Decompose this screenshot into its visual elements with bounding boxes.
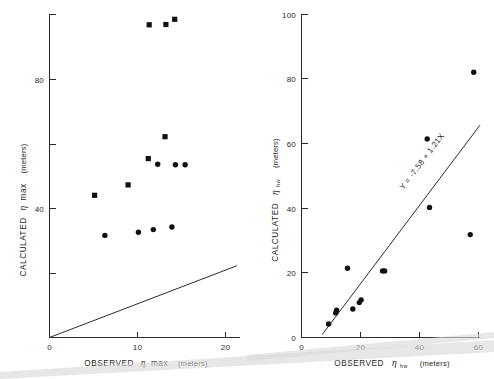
data-point-square: [163, 22, 168, 27]
left-ylabel-eta-symbol: η: [18, 205, 28, 210]
data-point-circle: [182, 162, 187, 167]
data-point-circle: [345, 266, 350, 271]
left-ylabel-prefix: CALCULATED: [19, 217, 28, 276]
data-point-circle: [173, 162, 178, 167]
left-ylabel-suffix: max: [19, 183, 28, 200]
data-point-circle: [425, 136, 430, 141]
data-point-circle: [358, 297, 363, 302]
right-ylabel-eta-symbol: η: [270, 190, 280, 195]
right-ylabel-subscript: hw: [275, 179, 281, 187]
left-y-axis-title: CALCULATED η max (meters): [18, 143, 28, 276]
data-point-circle: [468, 232, 473, 237]
left-ytick-label-80: 80: [35, 76, 45, 85]
data-point-circle: [155, 162, 160, 167]
data-point-square: [162, 134, 167, 139]
figure-container: 40 80 0 10 20 CALCULATED η max (meters) …: [0, 0, 494, 379]
right-ytick-label-60: 60: [287, 140, 297, 149]
data-point-circle: [102, 233, 107, 238]
left-xtick-label-20: 20: [221, 343, 231, 352]
data-point-square: [126, 182, 131, 187]
data-point-circle: [350, 306, 355, 311]
data-point-circle: [136, 230, 141, 235]
left-xtick-label-10: 10: [133, 343, 143, 352]
data-point-circle: [427, 205, 432, 210]
data-point-square: [147, 22, 152, 27]
data-point-circle: [382, 268, 387, 273]
left-ylabel-units: (meters): [19, 143, 28, 173]
data-point-circle: [169, 224, 174, 229]
data-point-circle: [471, 70, 476, 75]
right-ytick-label-80: 80: [287, 75, 297, 84]
left-xtick-label-0: 0: [47, 343, 52, 352]
data-point-circle: [334, 308, 339, 313]
right-xlabel-units: (meters): [420, 359, 450, 368]
data-point-circle: [151, 227, 156, 232]
right-ytick-label-100: 100: [282, 11, 296, 20]
right-ytick-label-20: 20: [287, 269, 297, 278]
right-ytick-label-0: 0: [291, 334, 296, 343]
data-point-square: [92, 193, 97, 198]
figure-background: [0, 0, 494, 379]
right-ylabel-units: (meters): [271, 138, 280, 168]
right-xlabel-eta-symbol: η: [392, 358, 397, 368]
two-panel-scatter-figure: 40 80 0 10 20 CALCULATED η max (meters) …: [0, 0, 494, 379]
right-ylabel-prefix: CALCULATED: [271, 203, 280, 262]
data-point-square: [172, 17, 177, 22]
right-xlabel-prefix: OBSERVED: [334, 359, 384, 368]
data-point-square: [146, 156, 151, 161]
right-ytick-label-40: 40: [287, 205, 297, 214]
left-ytick-label-40: 40: [35, 205, 45, 214]
svg-text:CALCULATED η: CALCULATED η max (meters): [18, 143, 28, 276]
data-point-circle: [326, 321, 331, 326]
right-xlabel-subscript: hw: [400, 363, 408, 369]
